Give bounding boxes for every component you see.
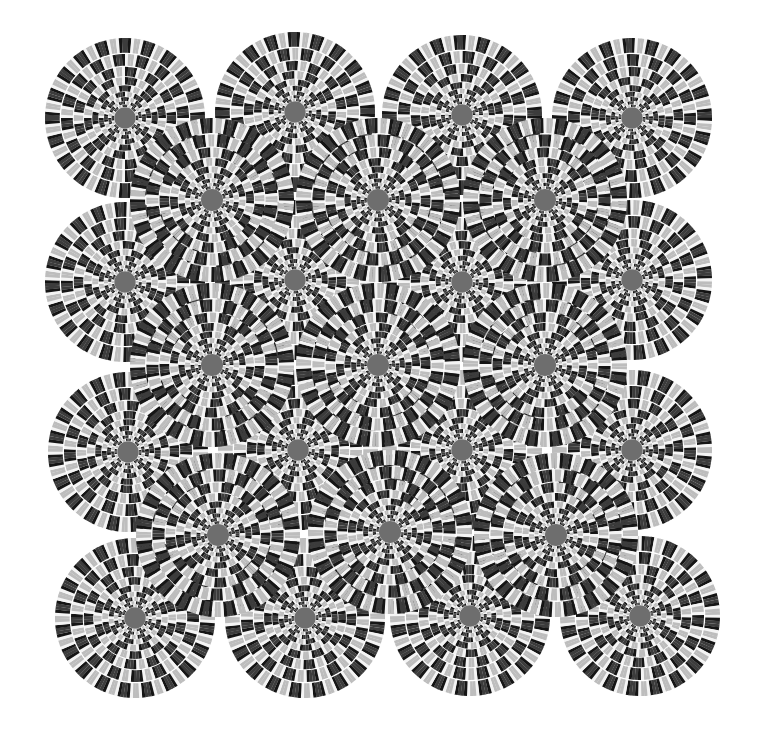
illusion-disc — [296, 283, 460, 447]
illusion-disc — [474, 453, 638, 617]
rotating-snakes-illusion — [0, 0, 767, 733]
illusion-disc — [463, 118, 627, 282]
illusion-disc — [463, 283, 627, 447]
illusion-disc — [308, 450, 472, 614]
illusion-disc — [130, 118, 294, 282]
illusion-disc — [130, 283, 294, 447]
illusion-disc — [296, 118, 460, 282]
illusion-disc — [136, 453, 300, 617]
